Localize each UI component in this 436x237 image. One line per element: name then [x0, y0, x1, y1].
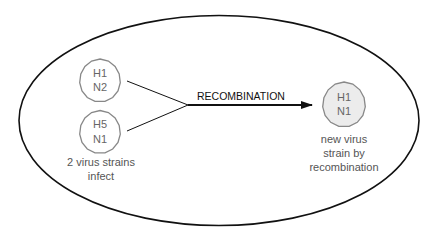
strain-h-label: H1 — [337, 91, 351, 103]
process-label: RECOMBINATION — [197, 90, 285, 102]
strain-n-label: N1 — [337, 105, 351, 117]
recombination-diagram: H1 N2 H5 N1 2 virus strains infect RECOM… — [0, 0, 436, 237]
input-strain-1: H1 N2 — [80, 59, 121, 101]
strain-h-label: H5 — [93, 118, 107, 130]
output-caption-line-1: new virus — [321, 133, 368, 145]
strain-n-label: N1 — [93, 133, 107, 145]
strain-h-label: H1 — [93, 67, 107, 79]
output-caption-line-2: strain by — [323, 147, 365, 159]
connector-line-top — [127, 81, 188, 105]
input-caption-line-2: infect — [88, 170, 114, 182]
strain-n-label: N2 — [93, 81, 107, 93]
input-caption-line-1: 2 virus strains — [67, 156, 135, 168]
input-strain-2: H5 N1 — [80, 111, 121, 153]
output-caption-line-3: recombination — [309, 161, 378, 173]
connector-line-bottom — [127, 105, 188, 131]
output-strain: H1 N1 — [323, 82, 366, 126]
